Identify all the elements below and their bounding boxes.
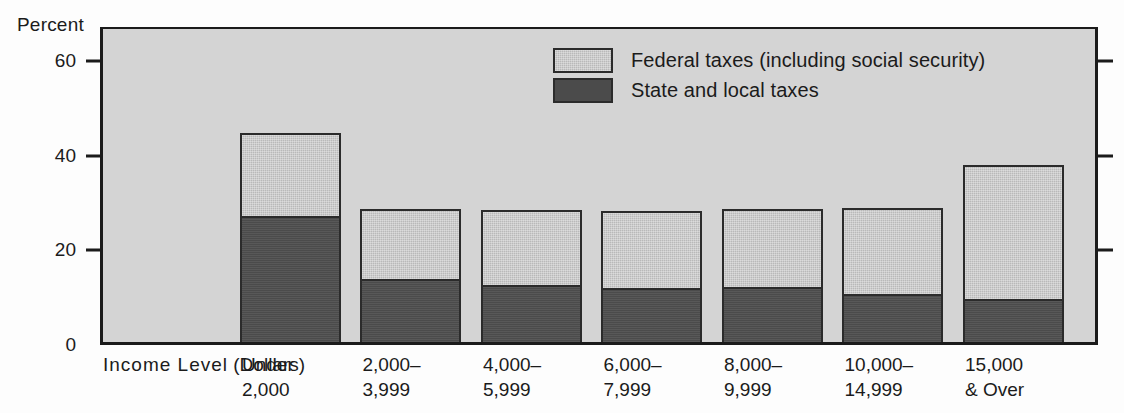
- x-axis-label-line1: 15,000: [965, 354, 1023, 375]
- x-axis-label-line1: 4,000–: [483, 354, 541, 375]
- bar-segment-federal-taxes: [965, 167, 1062, 299]
- legend-item-label: State and local taxes: [631, 79, 819, 102]
- x-axis-label-7: 15,000& Over: [965, 352, 1024, 402]
- legend-item-label: Federal taxes (including social security…: [631, 49, 985, 72]
- x-axis-caption-line1: Income Level: [103, 354, 228, 375]
- bar-4: [601, 211, 702, 342]
- x-axis-label-line1: 6,000–: [604, 354, 662, 375]
- x-axis-label-1: Under2,000: [242, 352, 294, 402]
- y-axis-tick-mark-left: [86, 154, 100, 157]
- chart-root: Percent 6040200 Federal taxes (including…: [0, 0, 1124, 413]
- legend-swatch-icon: [553, 48, 613, 73]
- x-axis-label-3: 4,000–5,999: [483, 352, 541, 402]
- bar-1: [240, 133, 341, 342]
- legend-item-1: Federal taxes (including social security…: [553, 45, 985, 75]
- y-axis-tick-mark-left: [86, 59, 100, 62]
- x-axis-label-line1: 8,000–: [724, 354, 782, 375]
- x-axis-label-line2: 2,000: [242, 377, 294, 402]
- y-axis-tick-mark-right: [1098, 249, 1113, 252]
- bar-segment-state-local-taxes: [603, 288, 700, 342]
- y-axis-tick-label: 20: [55, 239, 76, 261]
- bar-segment-state-local-taxes: [483, 285, 580, 342]
- bar-segment-state-local-taxes: [965, 299, 1062, 342]
- chart-legend: Federal taxes (including social security…: [553, 45, 985, 105]
- bar-segment-state-local-taxes: [844, 294, 941, 342]
- legend-item-2: State and local taxes: [553, 75, 985, 105]
- bar-6: [842, 208, 943, 342]
- bar-2: [360, 209, 461, 342]
- bar-5: [722, 209, 823, 342]
- x-axis-label-line2: 3,999: [363, 377, 421, 402]
- x-axis-label-2: 2,000–3,999: [363, 352, 421, 402]
- bar-segment-federal-taxes: [242, 135, 339, 216]
- bar-segment-federal-taxes: [483, 212, 580, 285]
- bar-segment-state-local-taxes: [242, 216, 339, 342]
- y-axis-tick-mark-right: [1098, 154, 1113, 157]
- x-axis-label-5: 8,000–9,999: [724, 352, 782, 402]
- bar-segment-federal-taxes: [603, 213, 700, 288]
- x-axis-label-line2: 9,999: [724, 377, 782, 402]
- bar-3: [481, 210, 582, 342]
- bar-7: [963, 165, 1064, 342]
- x-axis-label-6: 10,000–14,999: [845, 352, 914, 402]
- y-axis-tick-mark-left: [86, 249, 100, 252]
- bar-segment-federal-taxes: [844, 210, 941, 294]
- x-axis-label-line2: 7,999: [604, 377, 662, 402]
- x-axis-label-line2: & Over: [965, 377, 1024, 402]
- y-axis-tick-label: 60: [55, 50, 76, 72]
- x-axis-label-4: 6,000–7,999: [604, 352, 662, 402]
- legend-swatch-icon: [553, 78, 613, 103]
- x-axis-label-line1: 2,000–: [363, 354, 421, 375]
- y-axis-tick-label: 40: [55, 145, 76, 167]
- bar-segment-federal-taxes: [362, 211, 459, 279]
- bar-segment-state-local-taxes: [362, 279, 459, 342]
- bar-segment-state-local-taxes: [724, 287, 821, 342]
- x-axis-tick-labels: Income Level (Dollars) Under2,0002,000–3…: [0, 352, 1124, 412]
- bar-segment-federal-taxes: [724, 211, 821, 287]
- x-axis-label-line1: 10,000–: [845, 354, 914, 375]
- x-axis-label-line1: Under: [242, 354, 294, 375]
- x-axis-label-line2: 5,999: [483, 377, 541, 402]
- x-axis-caption: Income Level (Dollars): [103, 352, 228, 377]
- y-axis-tick-mark-right: [1098, 59, 1113, 62]
- x-axis-label-line2: 14,999: [845, 377, 914, 402]
